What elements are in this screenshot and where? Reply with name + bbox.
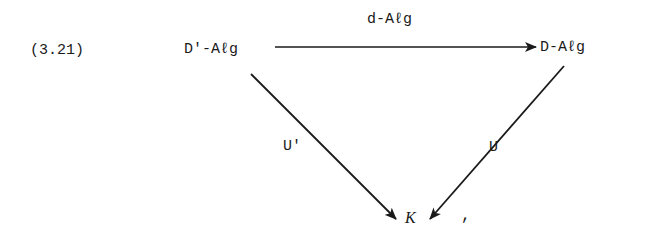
- arrow-right-icon: [430, 66, 564, 219]
- arrows-layer: [0, 0, 649, 245]
- arrow-left-icon: [251, 74, 396, 219]
